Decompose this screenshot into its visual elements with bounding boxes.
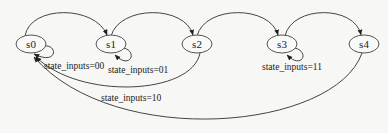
edge-s1-s2 [111,13,193,36]
state-node-s1: s1 [96,35,126,53]
edge-label-s2-s0: state_inputs=10 [101,93,161,103]
state-node-s4: s4 [349,35,379,53]
edge-s2-s3 [197,13,278,36]
state-diagram: s0 s1 s2 s3 s4 state_inputs=00 state_inp… [0,0,388,133]
edge-label-s0-self: state_inputs=00 [44,61,104,71]
state-label: s2 [192,38,202,50]
edge-s0-s1 [25,13,107,36]
state-node-s3: s3 [267,35,297,53]
state-node-s0: s0 [16,35,46,53]
edge-s3-s4 [285,13,361,36]
state-label: s3 [277,38,287,50]
state-label: s1 [106,38,116,50]
state-label: s4 [359,38,369,50]
edge-label-s1-self: state_inputs=01 [108,65,168,75]
state-label: s0 [26,38,36,50]
edge-label-s3-self: state_inputs=11 [262,62,322,72]
state-node-s2: s2 [182,35,212,53]
